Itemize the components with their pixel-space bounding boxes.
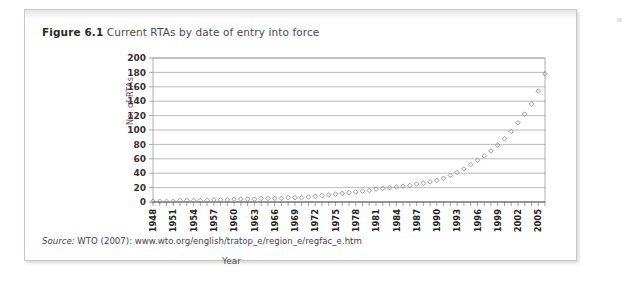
data-point-marker [380,186,385,191]
x-axis-tick-label: 1975 [331,209,341,232]
data-point-marker [367,188,372,193]
data-point-marker [239,197,244,202]
chart-plot-container: No. of RTAs Year 02040608010012014016018… [97,52,557,227]
data-point-marker [347,190,352,195]
data-point-marker [435,178,440,183]
data-point-marker [502,136,507,141]
x-axis-tick-label: 1954 [189,209,199,232]
x-axis-tick-label: 1990 [432,209,442,232]
x-axis-tick-label: 1972 [310,209,320,232]
x-axis-tick-label: 1963 [250,209,260,232]
source-label: Source: [42,236,75,246]
data-point-marker [340,191,345,196]
data-point-marker [218,198,223,203]
rta-scatter-chart: 0204060801001201401601802001948195119541… [97,52,557,252]
data-point-marker [225,198,230,203]
data-point-marker [360,189,365,194]
y-axis-tick-label: 80 [133,140,146,150]
data-point-marker [266,196,271,201]
x-axis-tick-label: 1984 [392,209,402,232]
x-axis-tick-label: 2002 [513,209,523,232]
figure-caption: Figure 6.1 Current RTAs by date of entry… [42,26,319,38]
x-axis-tick-label: 1957 [209,209,219,232]
source-note: Source: WTO (2007): www.wto.org/english/… [42,236,362,246]
x-axis-tick-label: 1978 [351,209,361,232]
x-axis-tick-label: 1993 [452,209,462,232]
data-point-marker [333,192,338,197]
data-point-marker [293,195,298,200]
figure-caption-title: Current RTAs by date of entry into force [107,26,320,38]
y-axis-tick-label: 100 [127,125,146,135]
data-point-marker [299,195,304,200]
data-point-marker [489,149,494,154]
y-axis-tick-label: 0 [140,197,146,207]
x-axis-title: Year [222,256,241,266]
data-point-marker [245,197,250,202]
x-axis-tick-label: 1948 [148,209,158,232]
data-point-marker [414,182,419,187]
x-axis-tick-label: 1960 [229,209,239,232]
data-point-marker [428,180,433,185]
card-top-gradient [25,10,576,19]
data-point-marker [448,173,453,178]
data-point-marker [468,162,473,167]
data-point-marker [482,154,487,159]
y-axis-tick-label: 140 [127,96,146,106]
data-point-marker [252,197,257,202]
y-axis-tick-label: 60 [133,154,146,164]
data-point-marker [272,196,277,201]
page-edge-speck [617,18,622,22]
data-point-marker [313,194,318,199]
x-axis-tick-label: 1951 [168,209,178,232]
data-point-marker [536,89,541,94]
data-point-marker [306,195,311,200]
data-point-marker [286,195,291,200]
data-point-marker [516,121,521,126]
data-point-marker [326,193,331,198]
data-point-marker [320,193,325,198]
y-axis-tick-label: 120 [127,111,146,121]
y-axis-tick-label: 20 [133,183,146,193]
x-axis-tick-label: 1999 [493,209,503,232]
source-url-text: WTO (2007): www.wto.org/english/tratop_e… [75,236,362,246]
figure-number-label: Figure 6.1 [42,26,103,38]
x-axis-tick-label: 1969 [290,209,300,232]
data-point-marker [212,198,217,203]
x-axis-tick-label: 2005 [533,209,543,232]
y-axis-tick-label: 160 [127,82,146,92]
y-axis-tick-label: 180 [127,68,146,78]
x-axis-tick-label: 1981 [371,209,381,232]
x-axis-tick-label: 1987 [412,209,422,232]
x-axis-tick-label: 1966 [270,209,280,232]
data-point-marker [232,197,237,202]
y-axis-tick-label: 200 [127,53,146,63]
data-point-marker [455,170,460,175]
data-point-marker [495,143,500,148]
x-axis-tick-label: 1996 [473,209,483,232]
data-point-marker [421,181,426,186]
data-point-marker [529,102,534,107]
data-point-marker [394,185,399,190]
data-point-marker [462,167,467,172]
data-point-marker [259,196,264,201]
data-point-marker [408,183,413,188]
data-point-marker [441,176,446,181]
data-point-marker [353,190,358,195]
y-axis-tick-label: 40 [133,168,146,178]
figure-card: Figure 6.1 Current RTAs by date of entry… [24,9,577,261]
data-point-marker [279,196,284,201]
